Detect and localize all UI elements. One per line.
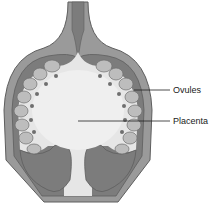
placenta-label: Placenta bbox=[173, 116, 208, 126]
ovules-label: Ovules bbox=[173, 85, 201, 95]
ovary-diagram bbox=[0, 0, 217, 207]
placenta-region bbox=[32, 70, 124, 150]
